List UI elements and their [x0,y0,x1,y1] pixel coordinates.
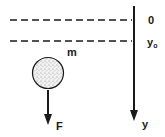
y-axis-arrowhead-icon [130,110,138,121]
mass-ball [33,58,64,89]
falling-mass-diagram: 0 yo y m F [0,0,165,137]
force-arrowhead-icon [44,114,52,125]
force-label: F [56,120,63,132]
y-axis-label: y [142,118,149,130]
initial-position-label: yo [147,36,157,49]
mass-label: m [67,46,77,58]
origin-label: 0 [148,14,154,26]
